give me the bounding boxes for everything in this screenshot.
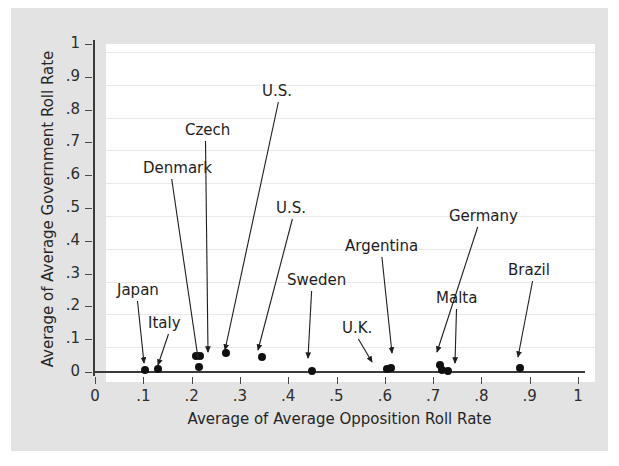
x-tick-0 bbox=[95, 377, 96, 384]
x-axis-title: Average of Average Opposition Roll Rate bbox=[95, 410, 584, 428]
x-tick-label-.5: .5 bbox=[322, 387, 352, 405]
annotation-label-denmark: Denmark bbox=[143, 160, 212, 176]
annotation-label-sweden: Sweden bbox=[287, 272, 346, 288]
gridline-y-1 bbox=[106, 52, 595, 53]
chart-screenshot: 0.1.2.3.4.5.6.7.8.91 0.1.2.3.4.5.6.7.8.9… bbox=[0, 0, 619, 466]
x-tick-label-.8: .8 bbox=[466, 387, 496, 405]
x-tick-.1 bbox=[143, 377, 144, 384]
y-axis-line bbox=[93, 40, 95, 376]
annotation-label-uk: U.K. bbox=[342, 320, 372, 336]
x-tick-.6 bbox=[385, 377, 386, 384]
data-point-brazil bbox=[516, 364, 524, 372]
x-tick-label-.3: .3 bbox=[225, 387, 255, 405]
annotation-label-malta: Malta bbox=[436, 290, 477, 306]
data-point-us bbox=[258, 353, 266, 361]
annotation-label-germany: Germany bbox=[449, 208, 518, 224]
annotation-label-argentina: Argentina bbox=[345, 238, 418, 254]
y-tick-.5 bbox=[85, 208, 92, 209]
x-tick-.3 bbox=[240, 377, 241, 384]
gridline-y-.6 bbox=[106, 183, 595, 184]
gridline-y-.1 bbox=[106, 347, 595, 348]
x-tick-1 bbox=[578, 377, 579, 384]
annotation-label-czech: Czech bbox=[185, 122, 230, 138]
data-point-argentina bbox=[387, 364, 395, 372]
x-tick-label-.9: .9 bbox=[515, 387, 545, 405]
annotation-label-us: U.S. bbox=[276, 200, 306, 216]
annotation-label-japan: Japan bbox=[117, 282, 159, 298]
y-tick-.4 bbox=[85, 241, 92, 242]
x-tick-label-.7: .7 bbox=[418, 387, 448, 405]
y-tick-.8 bbox=[85, 110, 92, 111]
y-tick-.2 bbox=[85, 306, 92, 307]
x-tick-.8 bbox=[481, 377, 482, 384]
x-axis-line bbox=[93, 371, 585, 373]
x-tick-.9 bbox=[530, 377, 531, 384]
x-tick-.2 bbox=[192, 377, 193, 384]
gridline-y-.3 bbox=[106, 282, 595, 283]
data-point-4 bbox=[195, 363, 203, 371]
x-tick-label-1: 1 bbox=[563, 387, 593, 405]
x-tick-label-.6: .6 bbox=[370, 387, 400, 405]
annotation-label-us: U.S. bbox=[262, 83, 292, 99]
y-tick-.1 bbox=[85, 339, 92, 340]
gridline-y-.9 bbox=[106, 85, 595, 86]
annotation-label-italy: Italy bbox=[148, 315, 181, 331]
gridline-y-.5 bbox=[106, 216, 595, 217]
y-tick-1 bbox=[85, 44, 92, 45]
x-tick-label-0: 0 bbox=[80, 387, 110, 405]
gridline-y-.8 bbox=[106, 118, 595, 119]
x-tick-label-.4: .4 bbox=[273, 387, 303, 405]
annotation-label-brazil: Brazil bbox=[508, 262, 550, 278]
y-tick-.7 bbox=[85, 142, 92, 143]
x-tick-label-.2: .2 bbox=[177, 387, 207, 405]
y-tick-.9 bbox=[85, 77, 92, 78]
y-tick-.3 bbox=[85, 274, 92, 275]
y-tick-.6 bbox=[85, 175, 92, 176]
x-tick-.5 bbox=[337, 377, 338, 384]
data-point-malta bbox=[444, 367, 452, 375]
chart-panel bbox=[11, 8, 608, 451]
gridline-y-.7 bbox=[106, 150, 595, 151]
x-tick-.7 bbox=[433, 377, 434, 384]
y-axis-title: Average of Average Government Roll Rate bbox=[39, 44, 57, 374]
x-tick-.4 bbox=[288, 377, 289, 384]
x-tick-label-.1: .1 bbox=[128, 387, 158, 405]
y-tick-0 bbox=[85, 372, 92, 373]
